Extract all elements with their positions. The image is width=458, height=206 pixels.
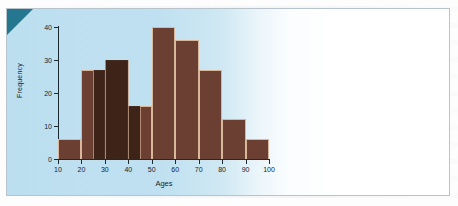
x-tick <box>152 160 153 164</box>
x-tick-label: 100 <box>258 166 280 174</box>
x-tick <box>81 160 82 164</box>
x-tick <box>128 160 129 164</box>
x-tick-label: 70 <box>188 166 210 174</box>
x-tick <box>58 160 59 164</box>
histogram-bar <box>58 139 81 159</box>
y-tick-label: 10 <box>32 123 52 130</box>
x-tick-label: 30 <box>94 166 116 174</box>
x-tick <box>269 160 270 164</box>
x-tick <box>246 160 247 164</box>
histogram-bar <box>199 70 222 159</box>
histogram-bar <box>152 27 175 159</box>
y-tick-label: 40 <box>32 24 52 31</box>
histogram-bar <box>246 139 269 159</box>
histogram-bar <box>222 119 245 159</box>
x-tick <box>175 160 176 164</box>
x-axis-line <box>58 159 270 160</box>
y-tick-label: 0 <box>32 156 52 163</box>
y-tick-label: 30 <box>32 57 52 64</box>
x-axis-title: Ages <box>58 179 270 188</box>
y-tick <box>54 60 58 61</box>
y-tick-label: 20 <box>32 90 52 97</box>
x-tick-label: 40 <box>117 166 139 174</box>
y-tick <box>54 126 58 127</box>
x-tick <box>222 160 223 164</box>
y-axis-title: Frequency <box>16 51 23 111</box>
x-tick-label: 60 <box>164 166 186 174</box>
y-tick <box>54 27 58 28</box>
figure-frame: Frequency Ages 010203040 102030405060708… <box>6 8 450 196</box>
x-tick-label: 90 <box>235 166 257 174</box>
x-tick-label: 50 <box>141 166 163 174</box>
histogram-bar <box>81 70 104 159</box>
histogram-bar <box>128 106 151 159</box>
histogram-bar <box>105 60 128 159</box>
x-tick-label: 80 <box>211 166 233 174</box>
y-tick <box>54 93 58 94</box>
x-tick-label: 20 <box>70 166 92 174</box>
x-tick <box>199 160 200 164</box>
histogram-bar <box>175 40 198 159</box>
x-tick <box>105 160 106 164</box>
scanned-page: Frequency Ages 010203040 102030405060708… <box>0 0 458 206</box>
x-tick-label: 10 <box>47 166 69 174</box>
histogram-plot: Frequency Ages 010203040 102030405060708… <box>7 9 450 195</box>
